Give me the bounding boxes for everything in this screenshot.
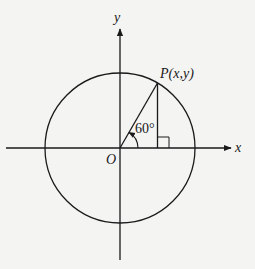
point-label: P(x,y)	[159, 66, 194, 82]
x-axis-label: x	[234, 140, 242, 155]
angle-label: 60°	[135, 121, 155, 136]
unit-circle-diagram: y x O P(x,y) 60°	[0, 0, 255, 269]
right-angle-marker	[158, 137, 170, 148]
origin-label: O	[106, 152, 116, 167]
y-axis-label: y	[112, 10, 121, 25]
radius-op	[120, 83, 158, 148]
